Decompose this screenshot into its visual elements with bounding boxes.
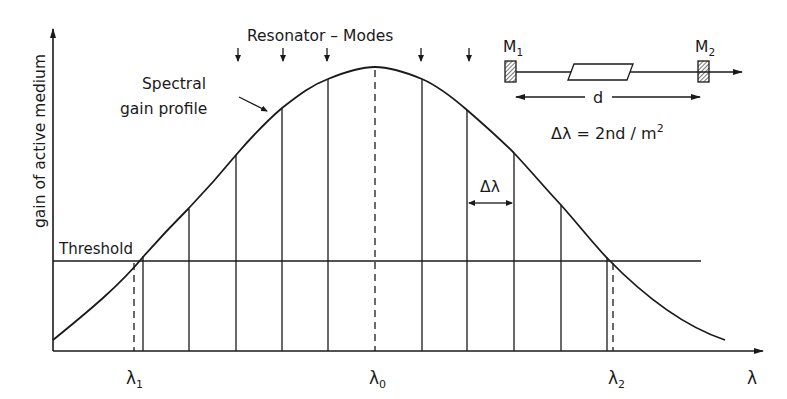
curve-label-pointer	[239, 97, 267, 111]
wavelength-labels: λ1 λ0 λ2 λ	[126, 368, 757, 391]
x-axis-label: λ	[747, 368, 757, 388]
curve-label-line2: gain profile	[120, 100, 207, 118]
mirror-1	[505, 61, 516, 82]
threshold-label: Threshold	[58, 240, 133, 258]
lambda-1-label: λ1	[126, 368, 143, 391]
mode-spacing: Δλ	[469, 178, 512, 203]
mode-spacing-formula: Δλ = 2nd / m2	[551, 122, 664, 143]
length-label: d	[593, 88, 603, 107]
mirror-1-label: M1	[503, 38, 523, 58]
mirror-2-label: M2	[695, 38, 715, 58]
resonator-inset: M1 M2 d Δλ = 2nd / m2	[503, 38, 742, 143]
resonator-modes-label: Resonator – Modes	[247, 27, 393, 45]
curve-label-line1: Spectral	[142, 75, 206, 93]
y-axis-label: gain of active medium	[31, 54, 49, 228]
mode-arrows	[238, 48, 469, 61]
delta-lambda-label: Δλ	[480, 178, 500, 196]
lambda-2-label: λ2	[608, 368, 625, 391]
laser-gain-profile-diagram: gain of active medium Threshold Spectral…	[0, 0, 787, 399]
lambda-0-label: λ0	[369, 368, 386, 391]
mirror-2	[698, 61, 709, 82]
active-medium-crystal	[568, 64, 633, 80]
